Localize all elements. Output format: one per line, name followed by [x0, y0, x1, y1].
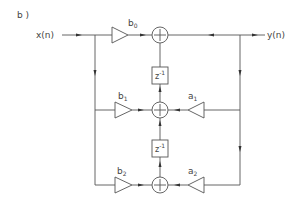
- left-branch-arrow: [94, 70, 97, 76]
- gain-b2-label: b2: [117, 166, 127, 177]
- gain-a2: [188, 177, 204, 193]
- gain-b0-label: b0: [128, 18, 138, 29]
- gain-b0: [112, 27, 128, 43]
- gain-a1: [188, 102, 204, 118]
- gain-b1-label: b1: [118, 91, 128, 102]
- direct-form-ii-transposed-diagram: b ) x(n) b0 y(n) z-1 b1 a1 z-1: [0, 0, 304, 203]
- output-label: y(n): [267, 30, 285, 40]
- input-label: x(n): [36, 30, 54, 40]
- gain-b1: [115, 102, 132, 118]
- gain-a2-label: a2: [188, 166, 198, 177]
- gain-b2: [115, 177, 132, 193]
- gain-a1-label: a1: [188, 91, 198, 102]
- figure-label: b ): [17, 10, 29, 20]
- input-arrow: [76, 34, 82, 37]
